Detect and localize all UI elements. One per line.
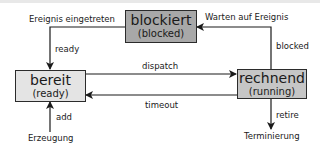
label-event-occurred: Ereignis eingetreten [29, 14, 115, 24]
state-running: rechnend (running) [237, 69, 307, 99]
label-timeout: timeout [145, 100, 178, 110]
state-running-title: rechnend [239, 71, 305, 86]
label-termination: Terminierung [244, 131, 300, 141]
state-blocked-subtitle: (blocked) [138, 28, 184, 40]
label-dispatch: dispatch [142, 61, 178, 71]
state-ready-subtitle: (ready) [32, 88, 68, 100]
label-blocked: blocked [276, 41, 309, 51]
state-ready-title: bereit [30, 73, 71, 88]
label-ready: ready [55, 44, 79, 54]
arrow-running-to-blocked [197, 27, 271, 69]
label-retire: retire [276, 110, 299, 120]
label-wait-event: Warten auf Ereignis [205, 12, 288, 22]
label-creation: Erzeugung [28, 133, 74, 143]
state-blocked: blockiert (blocked) [125, 10, 197, 43]
state-blocked-title: blockiert [131, 13, 192, 28]
state-ready: bereit (ready) [15, 70, 86, 102]
state-running-subtitle: (running) [249, 86, 295, 98]
label-add: add [56, 112, 72, 122]
